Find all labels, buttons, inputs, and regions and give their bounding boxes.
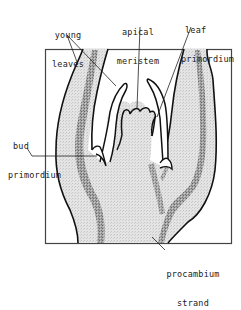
label-apical-meristem: apical meristem xyxy=(112,9,164,76)
label-bud-primordium-line2: primordium xyxy=(8,171,58,181)
label-apical-meristem-line2: meristem xyxy=(112,57,164,67)
apical-meristem-dome xyxy=(121,108,155,136)
label-procambium-strand-line2: strand xyxy=(163,299,223,309)
label-apical-meristem-line1: apical xyxy=(112,28,164,38)
label-procambium-strand: procambium strand xyxy=(163,251,223,310)
label-bud-primordium-line1: bud xyxy=(8,142,58,152)
label-leaf-primordium: leaf primordium xyxy=(181,7,241,74)
label-leaf-primordium-line1: leaf xyxy=(181,26,241,36)
label-young-leaves-line1: young xyxy=(48,31,88,41)
label-bud-primordium: bud primordium xyxy=(8,123,58,190)
label-procambium-strand-line1: procambium xyxy=(163,270,223,280)
label-young-leaves: young leaves xyxy=(48,12,88,79)
label-young-leaves-line2: leaves xyxy=(48,60,88,70)
label-leaf-primordium-line2: primordium xyxy=(181,55,241,65)
